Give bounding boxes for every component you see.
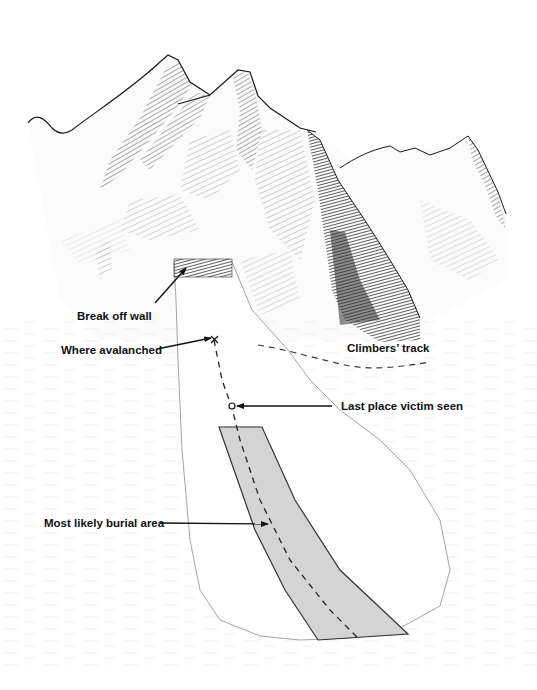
label-burial-area: Most likely burial area (44, 518, 164, 530)
label-where-avalanched: Where avalanched (61, 345, 162, 357)
arrow-burial-area (160, 523, 268, 524)
label-last-place-seen: Last place victim seen (341, 401, 463, 413)
mountains (28, 55, 506, 342)
label-climbers-track: Climbers’ track (347, 343, 429, 355)
label-break-off-wall: Break off wall (77, 311, 152, 323)
break-off-wall (174, 259, 232, 277)
last-seen-marker-icon (229, 403, 235, 409)
avalanche-diagram: Break off wall Where avalanched Climbers… (0, 0, 537, 690)
